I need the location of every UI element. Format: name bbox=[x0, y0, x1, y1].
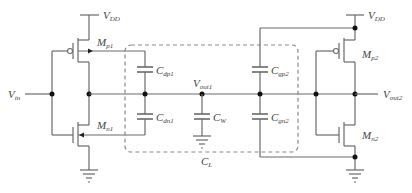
label-cw: CW bbox=[213, 111, 227, 125]
label-vout2: Vout2 bbox=[383, 88, 403, 102]
label-vin: Vin bbox=[8, 88, 21, 102]
label-vdd-left: VDD bbox=[103, 9, 120, 23]
label-mn1: Mn1 bbox=[96, 119, 113, 133]
label-mn2: Mn2 bbox=[361, 129, 379, 143]
label-vout1: Vout1 bbox=[193, 77, 212, 91]
load-capacitance-boundary bbox=[125, 45, 298, 152]
label-mp2: Mp2 bbox=[361, 48, 379, 62]
label-cdn1: Cdn1 bbox=[156, 111, 174, 125]
nmos-mn2-icon bbox=[316, 122, 355, 146]
pmos-mp2-icon bbox=[316, 38, 355, 62]
ground-right-icon bbox=[346, 170, 364, 182]
label-cdp1: Cdp1 bbox=[156, 64, 174, 78]
circuit-diagram: VDD Mp1 Mn1 Vin Cdp1 Cdn1 Vout1 CW Cgp2 … bbox=[0, 0, 412, 193]
ground-cw-icon bbox=[193, 136, 211, 148]
ground-left-icon bbox=[80, 170, 98, 182]
label-vdd-right: VDD bbox=[368, 9, 385, 23]
load-capacitors bbox=[137, 28, 355, 157]
label-mp1: Mp1 bbox=[96, 36, 113, 50]
label-cgn2: Cgn2 bbox=[271, 111, 289, 125]
vin-node bbox=[50, 92, 55, 97]
inverter-1 bbox=[25, 15, 145, 182]
label-cl: CL bbox=[201, 155, 212, 169]
label-cgp2: Cgp2 bbox=[271, 64, 289, 78]
